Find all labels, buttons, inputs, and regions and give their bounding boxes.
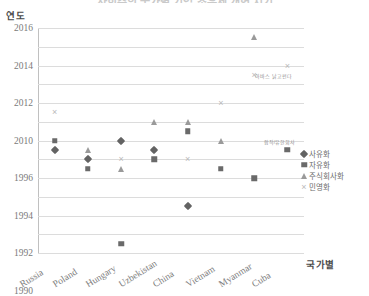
chart-legend: 사유화자유화주식회사화민영화 <box>300 148 344 192</box>
gridline: 1980 <box>38 253 304 254</box>
y-axis-tick-label: 2010 <box>14 136 33 146</box>
data-point-diamond <box>50 146 58 154</box>
data-point-diamond <box>117 136 125 144</box>
gridline: 1986 <box>38 197 304 198</box>
x-axis-tick-label: Myanmar <box>217 261 254 289</box>
gridline: 2016 <box>38 28 304 29</box>
legend-marker-cross-icon <box>300 183 308 191</box>
data-point-square <box>185 128 191 134</box>
x-axis-title: 국가별 <box>306 257 335 271</box>
x-axis-tick-label: China <box>151 269 176 290</box>
data-point-square <box>52 138 58 144</box>
data-point-cross <box>217 99 225 107</box>
y-axis-tick-label: 2016 <box>14 23 33 33</box>
legend-item[interactable]: 자유화 <box>300 159 344 170</box>
legend-label: 민영화 <box>309 181 330 192</box>
chart-annotation: 아바스 낡고펀다 <box>255 71 291 78</box>
gridline: 1982 <box>38 234 304 235</box>
data-point-diamond <box>84 155 92 163</box>
legend-label: 자유화 <box>309 159 330 170</box>
data-point-diamond <box>183 202 191 210</box>
gridline: 1984 <box>38 216 304 217</box>
legend-item[interactable]: 주식회사화 <box>300 170 344 181</box>
chart-annotation: 합작/유한회사 <box>264 137 295 144</box>
legend-marker-square-icon <box>300 161 308 169</box>
y-axis-tick-label: 1996 <box>14 173 33 183</box>
data-point-cross <box>283 62 291 70</box>
legend-item[interactable]: 사유화 <box>300 148 344 159</box>
chart-container: 사회주의 국가별 기업 소유제 개혁 시기 연도 국가별 20162014201… <box>0 0 369 296</box>
data-point-triangle <box>251 34 257 40</box>
y-axis-tick-label: 2014 <box>14 61 33 71</box>
data-point-triangle <box>185 119 191 125</box>
x-axis-tick-label: Vietnam <box>184 264 217 290</box>
gridline: 1996 <box>38 103 304 104</box>
plot-area: 2016201420122010199619941992199019881986… <box>38 28 304 253</box>
gridline: 1988 <box>38 178 304 179</box>
data-point-square <box>218 166 224 172</box>
gridline: 2012 <box>38 66 304 67</box>
legend-item[interactable]: 민영화 <box>300 181 344 192</box>
data-point-cross <box>117 155 125 163</box>
data-point-triangle <box>151 119 157 125</box>
data-point-triangle <box>218 138 224 144</box>
legend-marker-diamond-icon <box>300 150 308 158</box>
gridline: 2014 <box>38 47 304 48</box>
data-point-cross <box>184 155 192 163</box>
data-point-triangle <box>85 147 91 153</box>
data-point-diamond <box>150 146 158 154</box>
data-point-square <box>251 175 257 181</box>
gridline: 1994 <box>38 122 304 123</box>
legend-label: 주식회사화 <box>309 170 344 181</box>
data-point-square <box>118 241 124 247</box>
data-point-square <box>152 157 158 163</box>
y-axis-tick-label: 1992 <box>14 248 33 258</box>
y-axis-title: 연도 <box>6 8 25 22</box>
y-axis-tick-label: 1994 <box>14 211 33 221</box>
data-point-square <box>285 147 291 153</box>
y-axis-tick-label: 2012 <box>14 98 33 108</box>
gridline: 1990 <box>38 159 304 160</box>
data-point-square <box>85 166 91 172</box>
gridline: 2010 <box>38 84 304 85</box>
legend-marker-triangle-icon <box>300 172 308 180</box>
legend-label: 사유화 <box>309 148 330 159</box>
chart-title: 사회주의 국가별 기업 소유제 개혁 시기 <box>55 0 315 3</box>
data-point-cross <box>51 108 59 116</box>
x-axis-tick-label: Cuba <box>250 270 272 289</box>
x-axis-tick-label: Poland <box>51 267 79 289</box>
x-axis-tick-label: Hungary <box>84 263 117 289</box>
data-point-triangle <box>118 166 124 172</box>
